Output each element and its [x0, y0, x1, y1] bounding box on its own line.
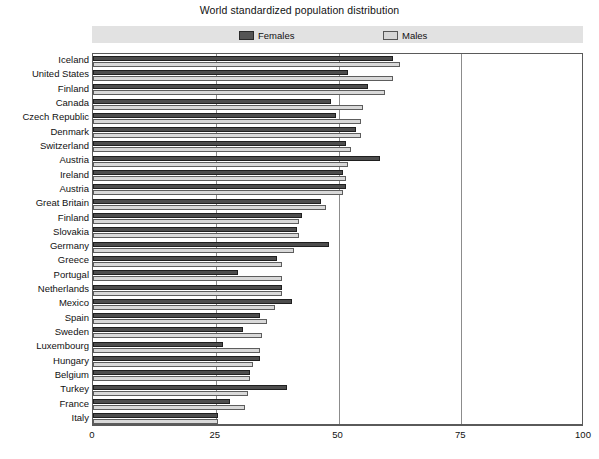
bar-male[interactable] [93, 419, 218, 424]
y-axis-label: Finland [1, 213, 89, 223]
bar-female[interactable] [93, 184, 346, 189]
bar-row [93, 326, 582, 340]
bar-female[interactable] [93, 385, 287, 390]
bar-female[interactable] [93, 370, 250, 375]
bar-female[interactable] [93, 170, 343, 175]
bar-female[interactable] [93, 113, 336, 118]
y-axis-label: Iceland [1, 55, 89, 65]
y-axis-category-labels: IcelandUnited StatesFinlandCanadaCzech R… [0, 53, 89, 425]
bar-row [93, 154, 582, 168]
x-tick-label-50: 50 [332, 429, 343, 440]
bar-female[interactable] [93, 313, 260, 318]
x-tick-label-0: 0 [89, 429, 94, 440]
y-axis-label: Hungary [1, 356, 89, 366]
y-axis-label: Sweden [1, 327, 89, 337]
legend-entry-females[interactable]: Females [239, 29, 294, 42]
bar-row [93, 226, 582, 240]
bar-female[interactable] [93, 227, 297, 232]
bar-row [93, 340, 582, 354]
bar-female[interactable] [93, 356, 260, 361]
bar-male[interactable] [93, 105, 363, 110]
bar-male[interactable] [93, 305, 275, 310]
y-axis-label: Luxembourg [1, 341, 89, 351]
bar-male[interactable] [93, 262, 282, 267]
bar-row [93, 297, 582, 311]
bar-male[interactable] [93, 405, 245, 410]
legend-swatch-males-icon [383, 31, 398, 40]
y-axis-label: United States [1, 69, 89, 79]
y-axis-label: Switzerland [1, 141, 89, 151]
bar-female[interactable] [93, 285, 282, 290]
bar-male[interactable] [93, 147, 351, 152]
bar-female[interactable] [93, 413, 218, 418]
y-axis-label: Germany [1, 241, 89, 251]
bar-male[interactable] [93, 276, 282, 281]
bar-male[interactable] [93, 291, 282, 296]
y-axis-label: Slovakia [1, 227, 89, 237]
bar-row [93, 211, 582, 225]
y-axis-label: Great Britain [1, 198, 89, 208]
bar-female[interactable] [93, 141, 346, 146]
bar-female[interactable] [93, 56, 393, 61]
bar-row [93, 397, 582, 411]
plot-inner [93, 54, 582, 424]
bar-male[interactable] [93, 190, 343, 195]
bar-female[interactable] [93, 270, 238, 275]
bar-male[interactable] [93, 233, 299, 238]
bar-female[interactable] [93, 84, 368, 89]
bar-male[interactable] [93, 62, 400, 67]
legend-swatch-females-icon [239, 31, 254, 40]
bar-row [93, 354, 582, 368]
bar-row [93, 83, 582, 97]
bar-female[interactable] [93, 199, 321, 204]
bar-female[interactable] [93, 342, 223, 347]
bar-male[interactable] [93, 391, 248, 396]
bar-row [93, 140, 582, 154]
bar-row [93, 54, 582, 68]
bar-male[interactable] [93, 376, 250, 381]
y-axis-label: Austria [1, 184, 89, 194]
bar-female[interactable] [93, 256, 277, 261]
bar-male[interactable] [93, 119, 361, 124]
bar-male[interactable] [93, 176, 346, 181]
y-axis-label: Finland [1, 84, 89, 94]
bar-female[interactable] [93, 127, 356, 132]
bar-row [93, 197, 582, 211]
legend-label-females: Females [258, 30, 294, 41]
y-axis-label: Denmark [1, 127, 89, 137]
bar-male[interactable] [93, 162, 348, 167]
bar-female[interactable] [93, 70, 348, 75]
bar-male[interactable] [93, 133, 361, 138]
y-axis-label: Italy [1, 413, 89, 423]
legend-label-males: Males [402, 30, 427, 41]
y-axis-label: Belgium [1, 370, 89, 380]
bar-row [93, 254, 582, 268]
bar-row [93, 168, 582, 182]
bar-male[interactable] [93, 333, 262, 338]
x-tick-label-100: 100 [575, 429, 591, 440]
bar-male[interactable] [93, 90, 385, 95]
y-axis-label: Spain [1, 313, 89, 323]
bar-male[interactable] [93, 219, 299, 224]
bar-female[interactable] [93, 242, 329, 247]
y-axis-label: Turkey [1, 384, 89, 394]
bar-male[interactable] [93, 348, 260, 353]
bar-male[interactable] [93, 319, 267, 324]
legend-entry-males[interactable]: Males [383, 29, 427, 42]
bar-female[interactable] [93, 299, 292, 304]
bar-row [93, 369, 582, 383]
y-axis-label: Ireland [1, 170, 89, 180]
bar-female[interactable] [93, 327, 243, 332]
bar-row [93, 68, 582, 82]
bar-row [93, 183, 582, 197]
bar-male[interactable] [93, 248, 294, 253]
bar-female[interactable] [93, 156, 380, 161]
bar-male[interactable] [93, 205, 326, 210]
bar-male[interactable] [93, 362, 253, 367]
plot-area [92, 53, 583, 425]
bar-female[interactable] [93, 399, 230, 404]
bar-male[interactable] [93, 76, 393, 81]
bar-female[interactable] [93, 99, 331, 104]
bar-female[interactable] [93, 213, 302, 218]
bar-row [93, 412, 582, 424]
